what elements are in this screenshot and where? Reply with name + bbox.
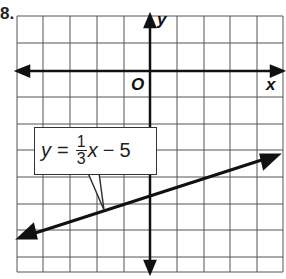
line-right-arrow-icon xyxy=(261,155,278,168)
numerator: 1 xyxy=(77,134,86,150)
eq-constant: 5 xyxy=(119,139,130,162)
eq-x: x xyxy=(88,139,98,162)
line-left-arrow-icon xyxy=(19,225,36,238)
equation-callout: y = 1 3 x − 5 xyxy=(34,127,157,175)
equation: y = 1 3 x − 5 xyxy=(41,134,131,167)
y-axis-down-arrow-icon xyxy=(145,261,155,273)
eq-y: y xyxy=(41,139,51,162)
eq-minus: − xyxy=(103,139,115,162)
fraction: 1 3 xyxy=(76,134,87,167)
denominator: 3 xyxy=(77,151,86,167)
y-axis-up-arrow-icon xyxy=(145,15,155,27)
origin-label: O xyxy=(131,75,144,95)
eq-equals: = xyxy=(57,139,69,162)
y-axis-label: y xyxy=(157,10,166,30)
x-axis-left-arrow-icon xyxy=(17,66,29,76)
x-axis-label: x xyxy=(266,75,275,95)
